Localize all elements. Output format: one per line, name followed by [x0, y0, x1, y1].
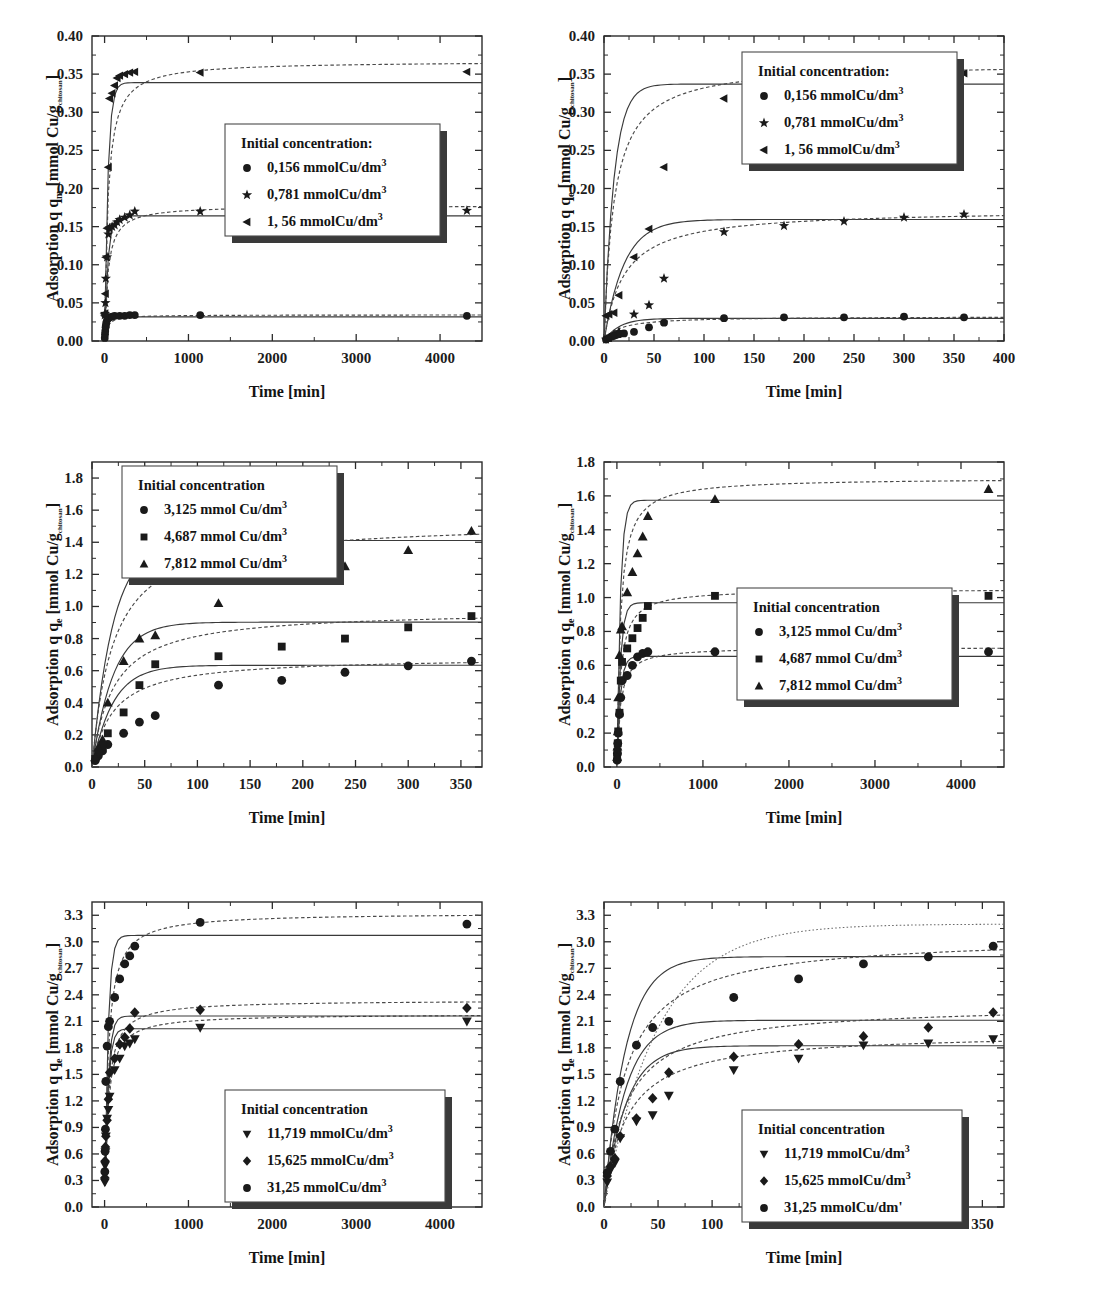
data-point-circle — [630, 328, 638, 336]
y-tick-label: 1.8 — [64, 470, 83, 486]
legend-item-label[interactable]: 4,687 mmol Cu/dm3 — [779, 648, 902, 666]
legend: Initial concentration11,719 mmolCu/dm315… — [225, 1090, 452, 1209]
data-point-circle — [101, 1147, 110, 1156]
x-tick-label: 400 — [993, 350, 1016, 366]
y-tick-label: 0.6 — [576, 1146, 595, 1162]
legend: Initial concentration:0,156 mmolCu/dm30,… — [742, 52, 964, 171]
y-tick-label: 0.9 — [576, 1119, 595, 1135]
legend-item-label[interactable]: 3,125 mmol Cu/dm3 — [779, 621, 902, 639]
data-point-circle — [989, 942, 998, 951]
y-tick-label: 0.6 — [576, 657, 595, 673]
x-tick-label: 0 — [600, 1216, 608, 1232]
data-point-diamond — [729, 1051, 739, 1062]
legend-item-label[interactable]: 1, 56 mmolCu/dm3 — [784, 139, 900, 157]
y-tick-label: 1.5 — [576, 1066, 595, 1082]
svg-text:Adsorption q qe [mmol Cu/gchit: Adsorption q qe [mmol Cu/gchitosan] — [556, 503, 576, 726]
data-point-triangle — [214, 598, 224, 607]
y-tick-label: 1.5 — [64, 1066, 83, 1082]
legend-item-label[interactable]: 7,812 mmol Cu/dm3 — [779, 675, 902, 693]
x-axis-title: Time [min] — [249, 809, 326, 826]
data-point-circle — [603, 1168, 612, 1177]
legend-item-label[interactable]: 1, 56 mmolCu/dm3 — [267, 211, 383, 229]
data-point-triangle — [150, 630, 160, 639]
y-tick-label: 0.0 — [64, 1199, 83, 1215]
plot-panel-d: 010002000300040000.00.20.40.60.81.01.21.… — [552, 440, 1052, 840]
data-point-diamond — [988, 1007, 998, 1018]
y-tick-label: 1.2 — [64, 566, 83, 582]
data-point-circle — [243, 164, 251, 172]
legend-item-label[interactable]: 3,125 mmol Cu/dm3 — [164, 499, 287, 517]
legend-item-label[interactable]: 7,812 mmol Cu/dm3 — [164, 553, 287, 571]
y-tick-label: 2.7 — [64, 960, 83, 976]
svg-text:Adsorption q qe [mmol Cu/gchit: Adsorption q qe [mmol Cu/gchitosan] — [556, 943, 576, 1166]
data-point-circle — [648, 1023, 657, 1032]
svg-text:Adsorption q qe [mmol Cu/gchit: Adsorption q qe [mmol Cu/gchitosan] — [44, 943, 64, 1166]
data-point-circle — [711, 647, 720, 656]
data-point-circle — [610, 1125, 619, 1134]
legend-item-label[interactable]: 11,719 mmolCu/dm3 — [784, 1143, 910, 1161]
x-tick-label: 50 — [137, 776, 152, 792]
y-tick-label: 0.8 — [64, 631, 83, 647]
data-point-down-triangle — [923, 1040, 933, 1049]
y-tick-label: 0.0 — [576, 1199, 595, 1215]
legend-item-label[interactable]: 4,687 mmol Cu/dm3 — [164, 526, 287, 544]
y-tick-label: 0.00 — [57, 333, 83, 349]
x-tick-label: 300 — [893, 350, 916, 366]
x-tick-label: 0 — [613, 776, 621, 792]
y-tick-label: 1.2 — [64, 1093, 83, 1109]
y-tick-label: 0.3 — [64, 1172, 83, 1188]
x-tick-label: 150 — [239, 776, 261, 792]
legend-item-label[interactable]: 15,625 mmolCu/dm3 — [267, 1150, 394, 1168]
data-point-down-triangle — [794, 1055, 804, 1064]
legend-item-label[interactable]: 0,156 mmolCu/dm3 — [784, 85, 903, 103]
plot-panel-c: 0501001502002503003500.00.20.40.60.81.01… — [40, 440, 520, 840]
data-point-circle — [924, 952, 933, 961]
y-tick-label: 2.7 — [576, 960, 595, 976]
x-tick-label: 100 — [693, 350, 716, 366]
legend-item-label[interactable]: 0,156 mmolCu/dm3 — [267, 157, 386, 175]
legend-marker-circle — [755, 628, 763, 636]
data-point-diamond — [462, 1003, 472, 1014]
data-point-circle — [794, 974, 803, 983]
x-tick-label: 50 — [647, 350, 662, 366]
data-point-circle — [462, 920, 471, 929]
fit-curve — [92, 665, 482, 767]
data-point-circle — [214, 681, 223, 690]
x-tick-label: 0 — [88, 776, 96, 792]
data-point-square — [468, 612, 476, 620]
x-tick-label: 0 — [101, 350, 109, 366]
data-point-triangle — [633, 548, 643, 557]
data-point-circle — [729, 993, 738, 1002]
legend-title: Initial concentration: — [758, 63, 890, 79]
svg-text:Adsorption q qe [mmol Cu/gchit: Adsorption q qe [mmol Cu/gchitosan] — [44, 503, 64, 726]
legend-item-label[interactable]: 15,625 mmolCu/dm3 — [784, 1170, 911, 1188]
data-point-star — [629, 309, 639, 319]
data-point-circle — [100, 1167, 109, 1176]
y-tick-label: 1.0 — [64, 598, 83, 614]
x-tick-label: 350 — [971, 1216, 994, 1232]
legend-item-label[interactable]: 11,719 mmolCu/dm3 — [267, 1123, 393, 1141]
data-point-circle — [243, 1184, 251, 1192]
y-tick-label: 2.1 — [576, 1013, 595, 1029]
fit-curve — [105, 317, 482, 337]
data-point-circle — [103, 1042, 112, 1051]
data-point-circle — [463, 312, 471, 320]
legend-item-label[interactable]: 31,25 mmolCu/dm3 — [267, 1177, 386, 1195]
y-tick-label: 1.6 — [576, 488, 595, 504]
legend-item-label[interactable]: 0,781 mmolCu/dm3 — [784, 112, 903, 130]
data-point-left-triangle — [196, 68, 204, 76]
x-axis-title: Time [min] — [249, 1249, 326, 1266]
data-point-circle — [105, 1017, 114, 1026]
data-point-circle — [628, 661, 637, 670]
legend-item-label[interactable]: 31,25 mmolCu/dm' — [784, 1199, 902, 1215]
legend-item-label[interactable]: 0,781 mmolCu/dm3 — [267, 184, 386, 202]
y-tick-label: 1.0 — [576, 590, 595, 606]
data-point-circle — [606, 1147, 615, 1156]
data-point-triangle — [643, 511, 653, 520]
x-tick-label: 2000 — [257, 350, 287, 366]
data-point-square — [215, 652, 223, 660]
data-point-circle — [135, 718, 144, 727]
legend-marker-circle — [243, 164, 251, 172]
chart-panel-middle-left: 0501001502002503003500.00.20.40.60.81.01… — [40, 440, 520, 840]
legend: Initial concentration3,125 mmol Cu/dm34,… — [737, 588, 959, 707]
